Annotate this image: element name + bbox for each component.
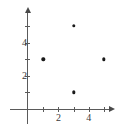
scatter-plot-figure: 24 24 (0, 0, 119, 135)
y-tick-mark (25, 59, 30, 60)
y-axis-arrow-icon (25, 7, 31, 13)
x-axis-line (10, 109, 111, 110)
data-point (41, 57, 44, 60)
y-tick-mark (25, 92, 30, 93)
data-point (72, 24, 75, 27)
x-tick-mark (74, 107, 75, 112)
y-tick-label: 2 (22, 71, 27, 81)
y-tick-mark (25, 26, 30, 27)
x-tick-mark (104, 107, 105, 112)
x-tick-label: 2 (56, 113, 61, 123)
data-point (102, 57, 105, 60)
y-axis-line (27, 11, 28, 124)
x-tick-label: 4 (86, 113, 91, 123)
y-tick-label: 4 (22, 38, 27, 48)
x-axis-arrow-icon (109, 106, 115, 112)
x-tick-mark (43, 107, 44, 112)
data-point (72, 91, 75, 94)
